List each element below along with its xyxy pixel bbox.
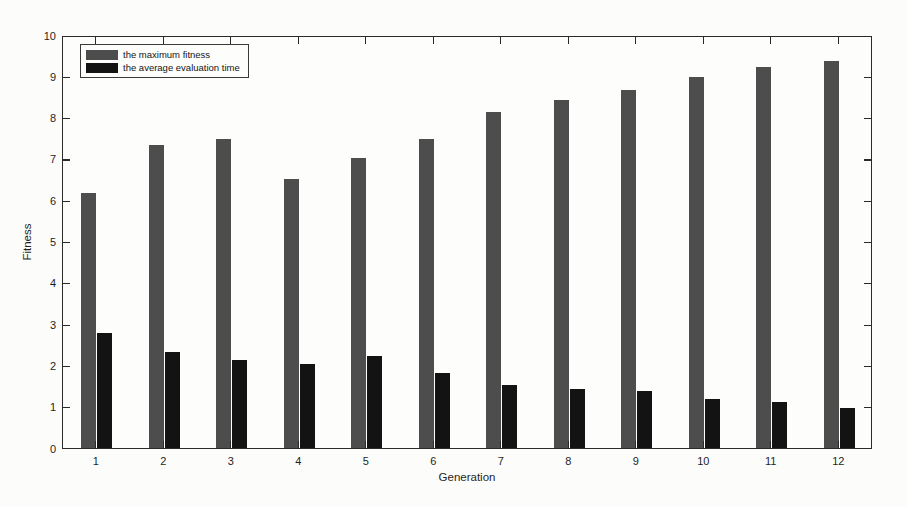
x-tick-mark [365,441,366,448]
bar-max-fitness-gen-3 [216,139,231,448]
x-tick-label-12: 12 [818,456,858,467]
x-tick-label-9: 9 [616,456,656,467]
x-tick-mark [500,37,501,44]
bar-max-fitness-gen-8 [554,100,569,448]
y-tick-mark [63,77,70,78]
y-tick-mark [63,283,70,284]
x-tick-mark [838,37,839,44]
legend-swatch-1 [86,63,118,73]
bar-avg-eval-time-gen-6 [435,373,450,448]
bar-avg-eval-time-gen-1 [97,333,112,448]
x-tick-mark [838,441,839,448]
y-tick-label-2: 2 [30,361,56,372]
bar-avg-eval-time-gen-2 [165,352,180,448]
x-tick-label-6: 6 [413,456,453,467]
x-tick-label-8: 8 [548,456,588,467]
x-tick-label-2: 2 [143,456,183,467]
x-tick-mark [770,37,771,44]
y-tick-mark [864,159,871,160]
y-tick-label-5: 5 [30,237,56,248]
x-tick-mark [163,37,164,44]
x-tick-mark [703,37,704,44]
x-tick-mark [230,441,231,448]
y-tick-mark [864,407,871,408]
y-tick-mark [63,366,70,367]
y-tick-mark [864,325,871,326]
y-tick-label-1: 1 [30,402,56,413]
y-tick-mark [63,242,70,243]
x-tick-mark [163,441,164,448]
y-tick-label-7: 7 [30,154,56,165]
bar-avg-eval-time-gen-11 [772,402,787,448]
bar-max-fitness-gen-10 [689,77,704,448]
x-tick-mark [433,441,434,448]
y-tick-label-8: 8 [30,113,56,124]
x-tick-label-3: 3 [211,456,251,467]
x-tick-mark [298,441,299,448]
x-tick-label-5: 5 [346,456,386,467]
x-tick-mark [95,441,96,448]
bar-max-fitness-gen-4 [284,179,299,449]
y-tick-mark [864,118,871,119]
bar-max-fitness-gen-1 [81,193,96,448]
bar-max-fitness-gen-9 [621,90,636,448]
x-tick-mark [95,37,96,44]
bar-avg-eval-time-gen-3 [232,360,247,448]
x-tick-mark [298,37,299,44]
x-tick-label-4: 4 [278,456,318,467]
y-tick-label-10: 10 [30,31,56,42]
legend-entry-1: the average evaluation time [86,62,240,73]
y-tick-mark [63,118,70,119]
x-tick-mark [568,37,569,44]
x-tick-label-10: 10 [683,456,723,467]
x-tick-label-11: 11 [751,456,791,467]
bar-chart-figure: the maximum fitnessthe average evaluatio… [0,0,907,506]
x-tick-mark [770,441,771,448]
chart-legend: the maximum fitnessthe average evaluatio… [80,44,249,78]
bar-avg-eval-time-gen-5 [367,356,382,448]
legend-label-0: the maximum fitness [123,49,210,60]
y-tick-label-4: 4 [30,278,56,289]
legend-swatch-0 [86,50,118,60]
bar-avg-eval-time-gen-12 [840,408,855,448]
y-tick-label-0: 0 [30,444,56,455]
x-tick-mark [433,37,434,44]
x-tick-mark [703,441,704,448]
y-tick-mark [63,325,70,326]
x-tick-label-1: 1 [76,456,116,467]
y-tick-mark [63,159,70,160]
x-axis-label: Generation [62,471,872,483]
bar-max-fitness-gen-5 [351,158,366,448]
y-tick-label-6: 6 [30,196,56,207]
bar-max-fitness-gen-11 [756,67,771,448]
bar-avg-eval-time-gen-4 [300,364,315,448]
x-tick-mark [500,441,501,448]
y-tick-label-9: 9 [30,72,56,83]
x-tick-label-7: 7 [481,456,521,467]
x-tick-mark [230,37,231,44]
bar-max-fitness-gen-12 [824,61,839,448]
x-tick-mark [568,441,569,448]
bar-avg-eval-time-gen-7 [502,385,517,448]
x-tick-mark [635,441,636,448]
legend-label-1: the average evaluation time [123,62,240,73]
x-tick-mark [365,37,366,44]
y-tick-mark [864,283,871,284]
y-tick-mark [864,201,871,202]
y-tick-mark [63,407,70,408]
bar-max-fitness-gen-6 [419,139,434,448]
y-tick-label-3: 3 [30,320,56,331]
y-tick-mark [63,201,70,202]
y-tick-mark [864,366,871,367]
bar-max-fitness-gen-2 [149,145,164,448]
bar-avg-eval-time-gen-9 [637,391,652,448]
bar-avg-eval-time-gen-10 [705,399,720,448]
y-tick-mark [864,242,871,243]
bar-avg-eval-time-gen-8 [570,389,585,448]
y-tick-mark [864,77,871,78]
x-tick-mark [635,37,636,44]
plot-area: the maximum fitnessthe average evaluatio… [62,36,872,449]
bar-max-fitness-gen-7 [486,112,501,448]
legend-entry-0: the maximum fitness [86,49,240,60]
